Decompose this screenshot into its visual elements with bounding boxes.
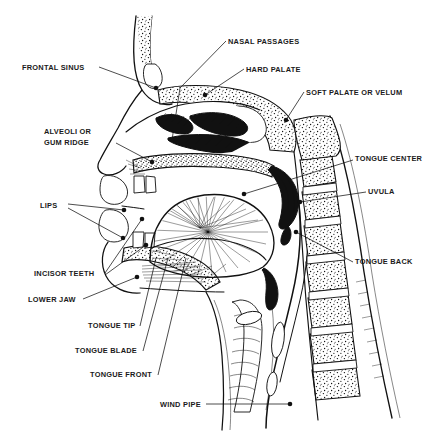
leader-soft-palate-endpoint [284, 118, 289, 123]
label-hard-palate: HARD PALATE [246, 65, 301, 74]
label-tongue-front: TONGUE FRONT [90, 370, 152, 379]
label-lips: LIPS [40, 201, 57, 210]
upper-incisor [134, 176, 145, 193]
label-incisor-teeth: INCISOR TEETH [34, 269, 94, 278]
leader-wind-pipe-endpoint [288, 402, 293, 407]
label-tongue-back: TONGUE BACK [355, 257, 413, 266]
leader-tongue-back-endpoint [294, 230, 299, 235]
leader-uvula-endpoint [298, 200, 303, 205]
diagram-canvas: NASAL PASSAGESHARD PALATESOFT PALATE OR … [0, 0, 441, 432]
leader-nasal-passages-endpoint [170, 138, 175, 143]
leader-lips-upper-endpoint [122, 208, 127, 213]
leader-lips-lower-endpoint [121, 236, 126, 241]
label-tongue-blade: TONGUE BLADE [75, 346, 137, 355]
label-alveoli-line1: ALVEOLI OR [44, 127, 92, 136]
skull-base [294, 116, 340, 160]
vocal-tract-diagram: NASAL PASSAGESHARD PALATESOFT PALATE OR … [0, 0, 441, 432]
label-frontal-sinus: FRONTAL SINUS [22, 63, 85, 72]
label-lower-jaw: LOWER JAW [28, 295, 76, 304]
leader-tongue-center-endpoint [242, 192, 247, 197]
label-tongue-tip: TONGUE TIP [88, 321, 136, 330]
label-soft-palate: SOFT PALATE OR VELUM [306, 88, 402, 97]
leader-frontal-sinus-endpoint [154, 86, 159, 91]
leader-incisor-upper-endpoint [140, 217, 145, 222]
label-wind-pipe: WIND PIPE [160, 400, 201, 409]
leader-hard-palate-endpoint [203, 93, 208, 98]
label-tongue-center: TONGUE CENTER [355, 154, 423, 163]
label-uvula: UVULA [368, 187, 395, 196]
vertebra-c1 [300, 156, 336, 187]
leader-alveoli-endpoint [150, 160, 155, 165]
upper-incisor-2 [146, 176, 156, 193]
lower-incisor [133, 232, 144, 248]
leader-incisor-lower-endpoint [144, 243, 149, 248]
leader-lower-jaw-endpoint [135, 275, 140, 280]
frontal-sinus-cavity [143, 64, 162, 89]
label-alveoli-line2: GUM RIDGE [44, 138, 89, 147]
label-nasal-passages: NASAL PASSAGES [228, 37, 299, 46]
